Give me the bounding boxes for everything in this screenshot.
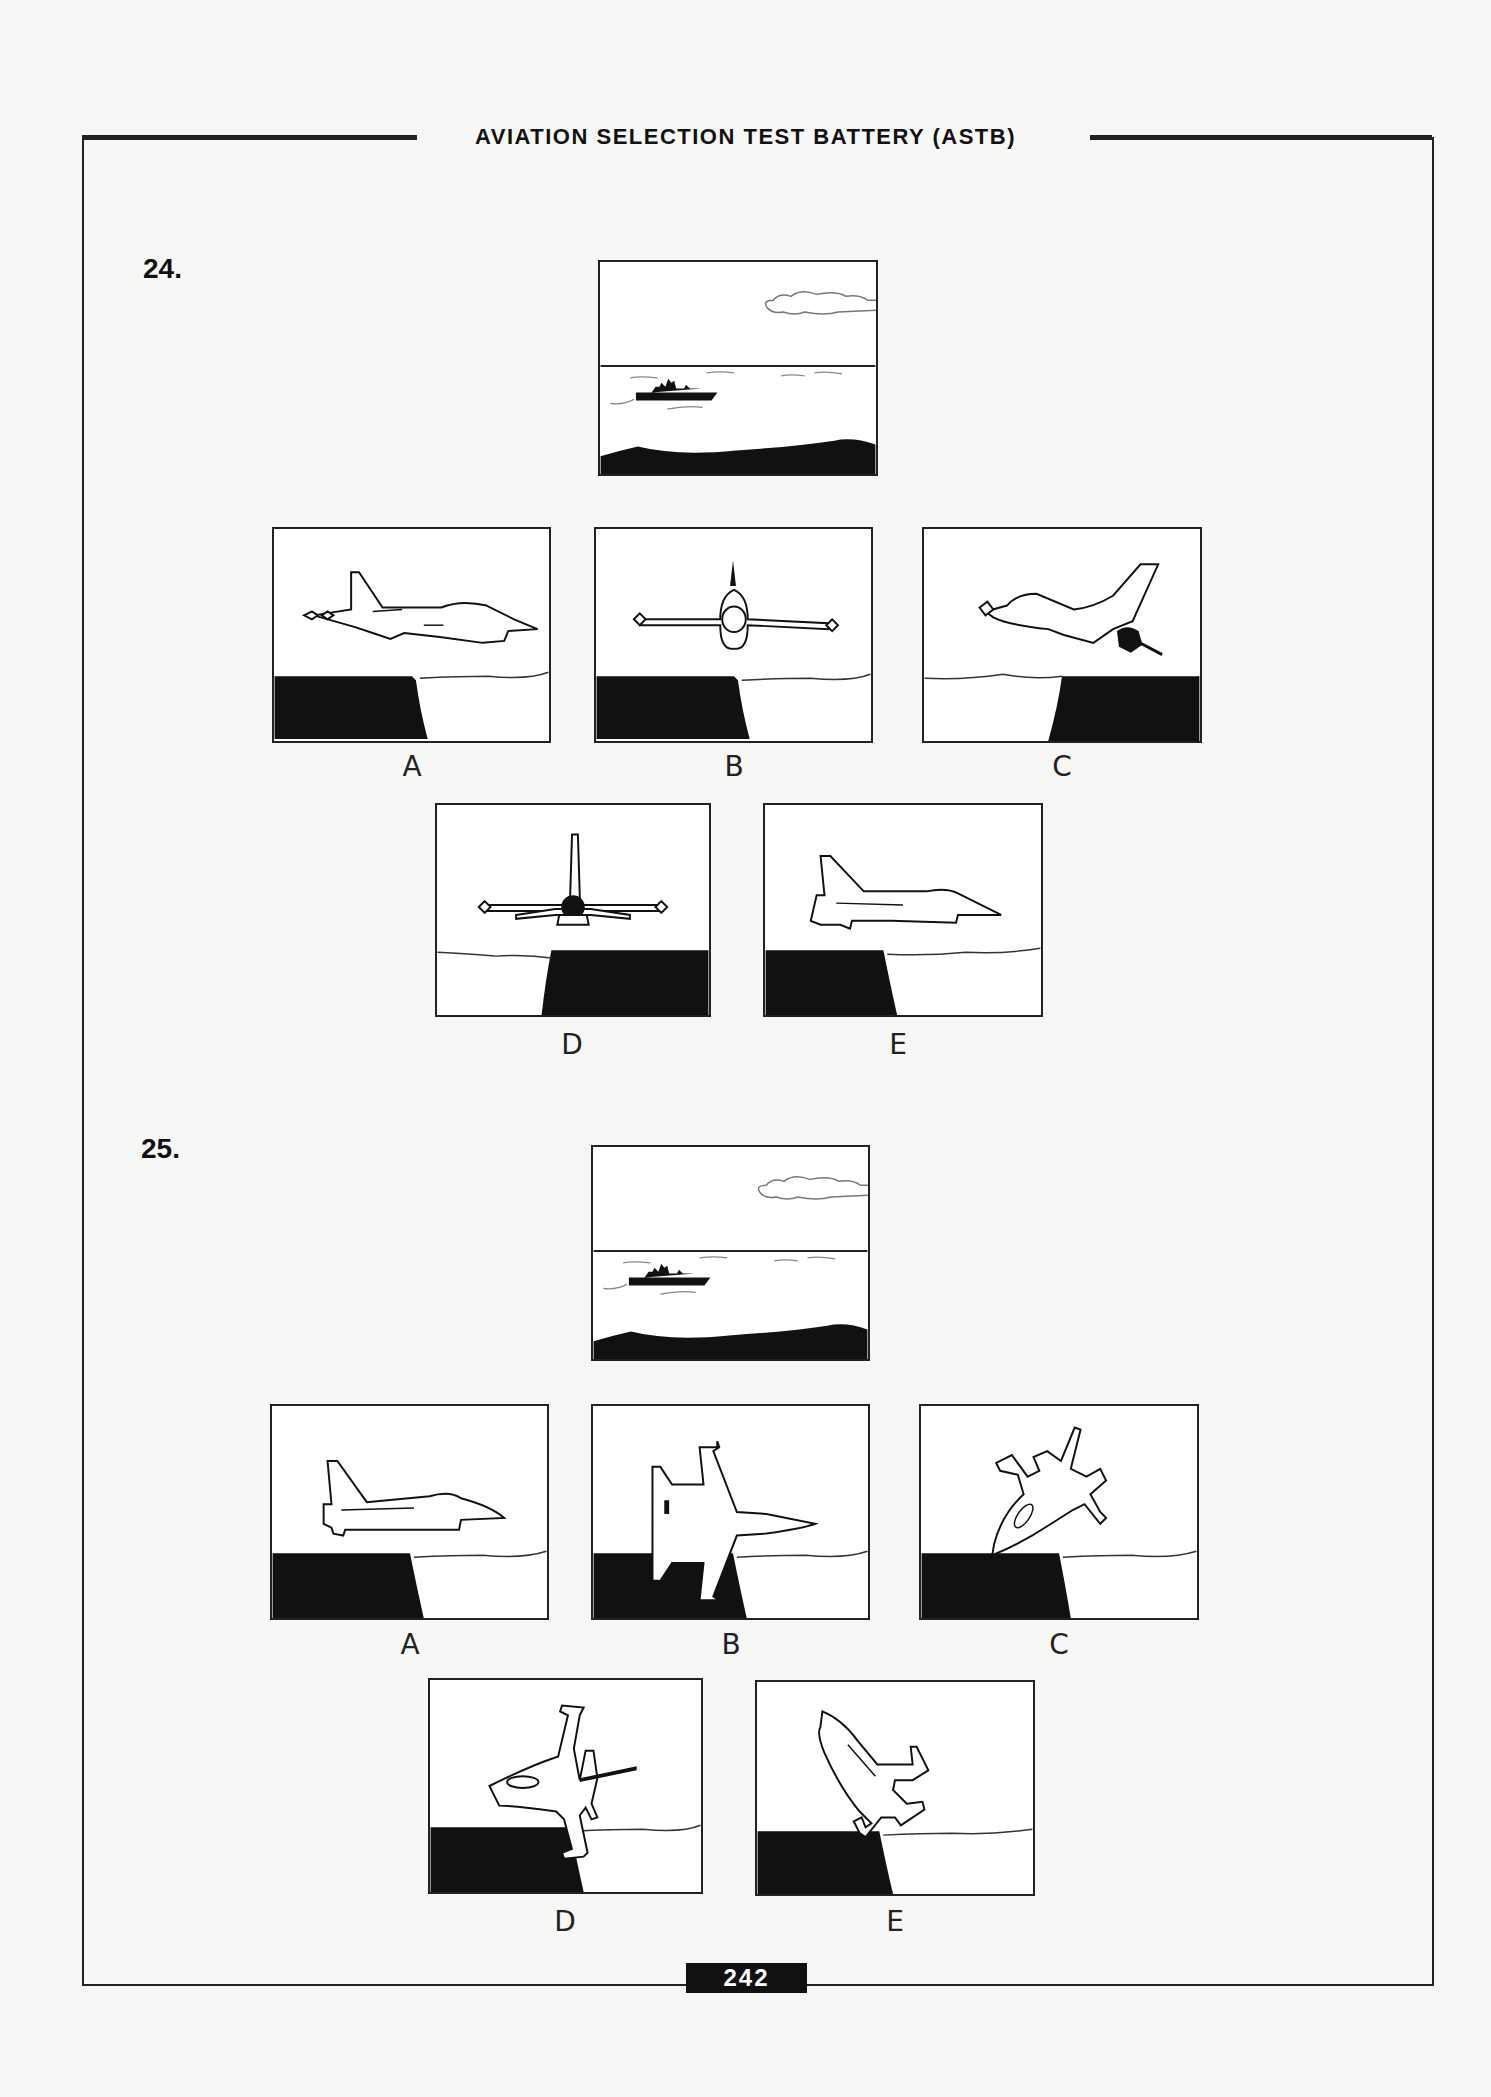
option-label: E [865,1905,925,1938]
jet-side-view-icon [765,805,1041,1015]
jet-side-view-icon [274,529,549,741]
jet-rear-view-icon [437,805,709,1015]
question-24-option-a[interactable] [272,527,551,743]
question-25-option-d[interactable] [428,1678,703,1894]
question-25-prompt-scene [591,1145,870,1361]
page-number: 242 [686,1963,807,1993]
option-label: D [542,1028,602,1061]
question-25-option-e[interactable] [755,1680,1035,1896]
jet-banked-top-view-icon [430,1680,701,1892]
option-label: D [535,1905,595,1938]
question-25-option-c[interactable] [919,1404,1199,1620]
question-25-option-b[interactable] [591,1404,870,1620]
option-label: E [868,1028,928,1061]
jet-side-view-icon [272,1406,547,1618]
option-label: C [1032,750,1092,783]
question-24-option-e[interactable] [763,803,1043,1017]
option-label: B [704,750,764,783]
ship-scene-illustration [600,262,876,474]
option-label: A [380,1628,440,1661]
question-24-option-c[interactable] [922,527,1202,743]
option-label: C [1029,1628,1089,1661]
option-label: B [701,1628,761,1661]
ship-scene-illustration [593,1147,868,1359]
question-25-option-a[interactable] [270,1404,549,1620]
question-24-prompt-scene [598,260,878,476]
question-24-option-b[interactable] [594,527,873,743]
question-number: 25. [141,1133,180,1165]
option-label: A [382,750,442,783]
question-24-option-d[interactable] [435,803,711,1017]
jet-front-view-icon [596,529,871,741]
jet-top-view-icon [593,1406,868,1618]
question-number: 24. [143,253,182,285]
jet-banked-view-icon [924,529,1200,741]
jet-climbing-top-view-icon [757,1682,1033,1894]
jet-diving-top-view-icon [921,1406,1197,1618]
